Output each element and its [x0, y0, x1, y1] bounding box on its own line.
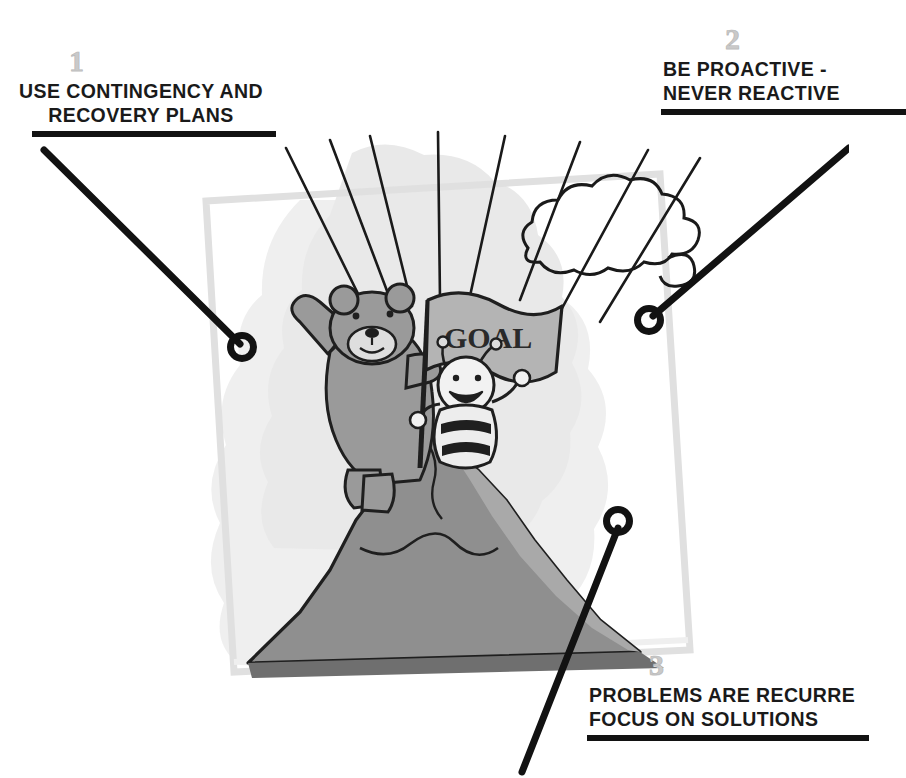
callout-marker-1 [231, 336, 254, 359]
callout-3-line-2: FOCUS ON SOLUTIONS [589, 708, 865, 732]
callout-2-line-2: NEVER REACTIVE [663, 82, 903, 106]
picture-frame [206, 174, 690, 672]
callout-1-text: USE CONTINGENCY AND RECOVERY PLANS [0, 76, 282, 128]
leader-line-1 [44, 150, 240, 344]
teddy-bear [292, 284, 441, 512]
callout-3-text: PROBLEMS ARE RECURRE FOCUS ON SOLUTIONS [565, 680, 865, 732]
callout-3-underline [587, 735, 869, 741]
callout-2-text: BE PROACTIVE - NEVER REACTIVE [643, 54, 903, 106]
leader-line-2 [653, 148, 849, 316]
goal-flag: GOAL [420, 293, 562, 468]
parachute-strings [286, 132, 700, 322]
callout-1-line-1: USE CONTINGENCY AND [8, 80, 274, 104]
callout-2-number: 2 [633, 24, 833, 54]
goal-flag-text: GOAL [444, 321, 532, 354]
callout-1-number: 1 [0, 46, 282, 76]
mountain-peak [248, 430, 664, 678]
callout-1-underline [32, 131, 276, 137]
callout-2-underline [661, 109, 906, 115]
cloud-icon [523, 175, 700, 286]
callout-1-line-2: RECOVERY PLANS [8, 104, 274, 128]
bee-character [410, 337, 530, 469]
callout-3-line-1: PROBLEMS ARE RECURRE [589, 684, 865, 708]
callout-2: 2 BE PROACTIVE - NEVER REACTIVE [643, 24, 903, 115]
callout-marker-2 [638, 309, 661, 332]
callout-1: 1 USE CONTINGENCY AND RECOVERY PLANS [0, 46, 282, 137]
callout-3-number: 3 [557, 650, 757, 680]
callout-markers [231, 309, 661, 533]
callout-marker-3 [607, 510, 630, 533]
callout-3: 3 PROBLEMS ARE RECURRE FOCUS ON SOLUTION… [565, 650, 865, 741]
background-wash [211, 144, 608, 671]
callout-2-line-1: BE PROACTIVE - [663, 58, 903, 82]
